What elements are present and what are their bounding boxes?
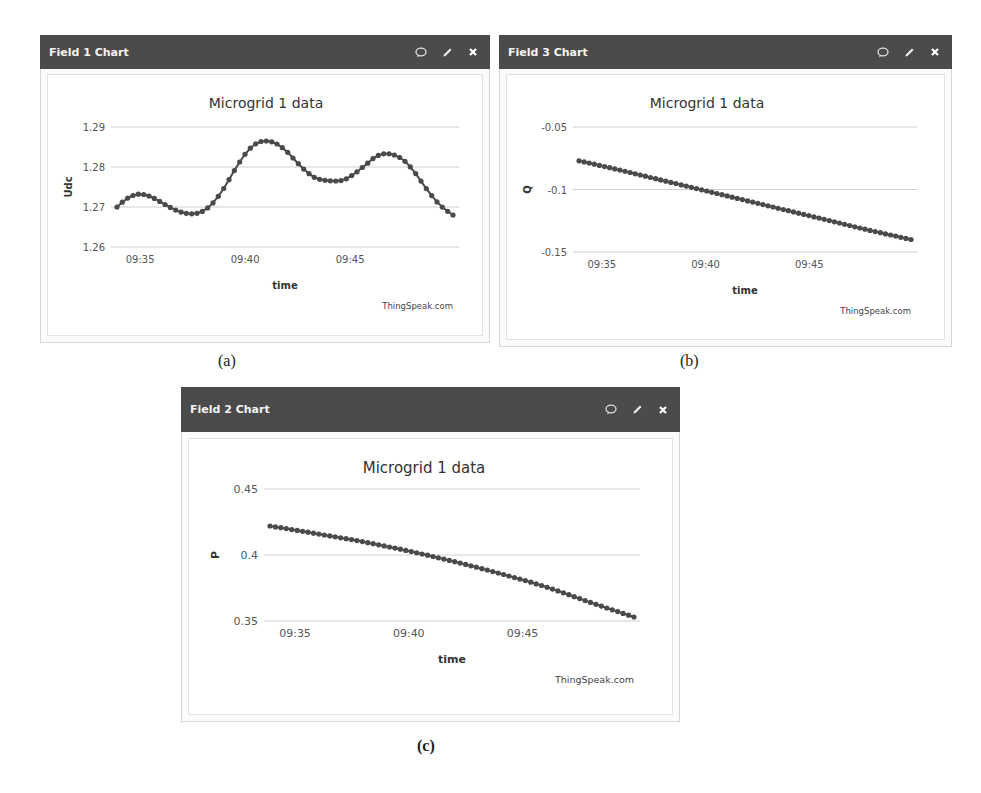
- series-markers: [267, 523, 636, 619]
- y-tick-label: -0.05: [541, 122, 567, 133]
- comment-icon[interactable]: [877, 46, 889, 58]
- x-tick-labels: 09:3509:4009:45: [279, 627, 538, 640]
- pencil-icon[interactable]: [903, 46, 915, 58]
- chart-panel-field-3: Field 3 Chart Microgrid 1 data -0.05-0.1…: [499, 35, 952, 347]
- panel-title: Field 2 Chart: [190, 403, 605, 416]
- y-axis-label: Q: [522, 185, 533, 194]
- x-tick-label: 09:40: [231, 254, 260, 265]
- chart-title: Microgrid 1 data: [650, 95, 764, 111]
- credit-link[interactable]: ThingSpeak.com: [381, 301, 453, 311]
- x-tick-label: 09:40: [691, 259, 720, 270]
- close-icon[interactable]: [467, 46, 479, 58]
- series-line: [270, 526, 634, 617]
- y-tick-label: 0.35: [234, 615, 259, 628]
- y-tick-label: 0.45: [234, 483, 259, 496]
- caption-a: (a): [218, 352, 236, 370]
- y-tick-label: 0.4: [241, 549, 259, 562]
- panel-title: Field 1 Chart: [49, 46, 415, 59]
- x-tick-label: 09:45: [507, 627, 539, 640]
- x-axis-label: time: [272, 280, 298, 291]
- y-gridlines: 0.350.40.45: [234, 483, 641, 628]
- chart-title: Microgrid 1 data: [209, 95, 323, 111]
- y-tick-label: -0.15: [541, 247, 567, 258]
- y-axis-label: Udc: [63, 176, 74, 197]
- comment-icon[interactable]: [415, 46, 427, 58]
- x-axis-label: time: [438, 653, 466, 666]
- y-gridlines: -0.05-0.1-0.15: [541, 122, 917, 258]
- y-axis-label: P: [209, 551, 222, 559]
- chart-panel-field-2: Field 2 Chart Microgrid 1 data 0.350.40.…: [181, 387, 680, 722]
- credit-link[interactable]: ThingSpeak.com: [554, 674, 634, 685]
- x-tick-label: 09:35: [587, 259, 616, 270]
- chart-area: Microgrid 1 data -0.05-0.1-0.1509:3509:4…: [506, 74, 945, 340]
- x-tick-label: 09:35: [126, 254, 155, 265]
- panel-header: Field 1 Chart: [40, 35, 490, 69]
- panel-header: Field 2 Chart: [181, 387, 680, 432]
- x-tick-label: 09:45: [336, 254, 365, 265]
- line-chart: Microgrid 1 data 1.261.271.281.2909:3509…: [48, 75, 484, 337]
- pencil-icon[interactable]: [631, 404, 643, 416]
- line-chart: Microgrid 1 data -0.05-0.1-0.1509:3509:4…: [507, 75, 946, 341]
- caption-c: (c): [417, 737, 435, 755]
- y-tick-label: 1.27: [83, 202, 105, 213]
- chart-area: Microgrid 1 data 1.261.271.281.2909:3509…: [47, 74, 483, 336]
- panel-header: Field 3 Chart: [499, 35, 952, 69]
- x-tick-label: 09:45: [795, 259, 824, 270]
- panel-title: Field 3 Chart: [508, 46, 877, 59]
- caption-b: (b): [680, 352, 699, 370]
- x-tick-label: 09:35: [279, 627, 311, 640]
- x-tick-labels: 09:3509:4009:45: [126, 254, 365, 265]
- chart-panel-field-1: Field 1 Chart Microgrid 1 data 1.261.271…: [40, 35, 490, 343]
- x-axis-label: time: [732, 285, 758, 296]
- pencil-icon[interactable]: [441, 46, 453, 58]
- chart-title: Microgrid 1 data: [363, 459, 486, 477]
- comment-icon[interactable]: [605, 404, 617, 416]
- close-icon[interactable]: [657, 404, 669, 416]
- line-chart: Microgrid 1 data 0.350.40.4509:3509:4009…: [189, 439, 674, 716]
- y-tick-label: 1.29: [83, 122, 105, 133]
- y-tick-label: -0.1: [547, 185, 567, 196]
- x-tick-label: 09:40: [393, 627, 425, 640]
- x-tick-labels: 09:3509:4009:45: [587, 259, 823, 270]
- credit-link[interactable]: ThingSpeak.com: [839, 306, 911, 316]
- y-tick-label: 1.28: [83, 162, 105, 173]
- close-icon[interactable]: [929, 46, 941, 58]
- y-tick-label: 1.26: [83, 242, 105, 253]
- chart-area: Microgrid 1 data 0.350.40.4509:3509:4009…: [188, 438, 673, 715]
